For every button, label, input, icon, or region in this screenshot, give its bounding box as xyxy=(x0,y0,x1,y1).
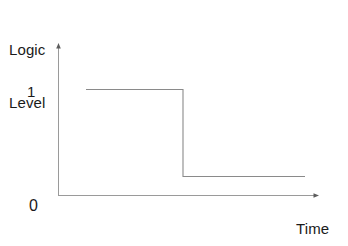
y-tick-label-1: 1 xyxy=(27,83,35,101)
logic-level-timing-diagram: Logic Level 1 0 Time xyxy=(0,0,348,246)
y-tick-label-0: 0 xyxy=(29,197,38,216)
plot-area xyxy=(0,0,348,246)
y-axis-title: Logic Level xyxy=(9,6,45,148)
logic-signal-trace xyxy=(86,90,305,177)
x-axis-arrowhead-icon xyxy=(314,193,320,198)
y-axis-title-line-1: Logic xyxy=(9,41,45,59)
y-axis-arrowhead-icon xyxy=(56,43,61,49)
x-axis-title: Time xyxy=(296,220,329,238)
